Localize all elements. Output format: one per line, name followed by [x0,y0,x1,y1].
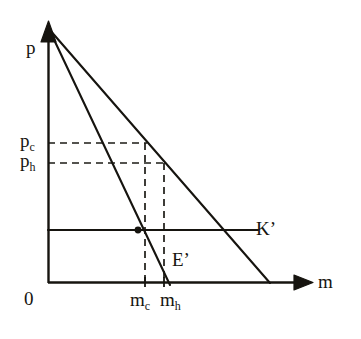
diagram-svg [0,0,361,339]
equilibrium-dot-marker [135,227,142,234]
price-c-label: pc [20,131,35,150]
figure-canvas: p m 0 pc ph mc mh K’ E’ [0,0,361,339]
curve-label-e-prime: E’ [172,250,190,269]
price-h-subscript: h [30,160,36,174]
x-axis-arrowhead-icon [294,275,313,290]
y-axis-label: p [26,38,36,57]
quantity-c-subscript: c [145,299,150,313]
quantity-h-base: m [160,289,175,310]
curve-label-k-prime: K’ [256,219,276,238]
origin-label: 0 [24,289,34,308]
demand-line-e [49,29,170,285]
price-h-base: p [20,150,30,171]
quantity-c-base: m [130,289,145,310]
quantity-c-label: mc [130,290,150,309]
price-c-base: p [20,130,30,151]
demand-line-k [49,29,270,283]
x-axis-label: m [318,272,333,291]
y-axis-arrowhead-icon [41,21,56,42]
price-h-label: ph [20,151,36,170]
quantity-h-label: mh [160,290,181,309]
quantity-h-subscript: h [175,299,181,313]
